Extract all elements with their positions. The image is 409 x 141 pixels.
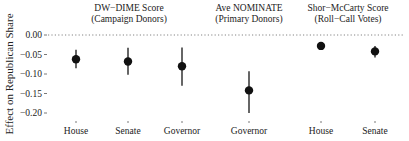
point-estimate bbox=[178, 62, 186, 70]
y-axis-title-text: Effect on Republican Share bbox=[3, 13, 15, 134]
x-tick-label: Governor bbox=[164, 126, 201, 136]
panel-title: DW−DIME Score bbox=[94, 3, 163, 13]
panel-3: Shor−McCarty Score(Roll−Call Votes)House… bbox=[307, 3, 388, 136]
panel-title: Shor−McCarty Score bbox=[307, 3, 388, 13]
panel-subtitle: (Campaign Donors) bbox=[91, 14, 167, 25]
y-tick-label: 0.00 bbox=[25, 30, 42, 40]
panel-subtitle: (Primary Donors) bbox=[215, 14, 282, 25]
point-estimate bbox=[317, 42, 325, 50]
point-estimate bbox=[371, 47, 379, 55]
y-axis: 0.00−0.05−0.10−0.15−0.20 bbox=[20, 30, 47, 118]
y-tick-label: −0.20 bbox=[20, 108, 42, 118]
point-estimate bbox=[245, 86, 253, 94]
y-axis-title: Effect on Republican Share bbox=[3, 13, 15, 134]
panel-title: Ave NOMINATE bbox=[215, 3, 282, 13]
panels: DW−DIME Score(Campaign Donors)HouseSenat… bbox=[64, 3, 389, 136]
x-tick-label: Governor bbox=[231, 126, 268, 136]
x-tick-label: Senate bbox=[115, 126, 140, 136]
point-estimate bbox=[72, 55, 80, 63]
panel-1: DW−DIME Score(Campaign Donors)HouseSenat… bbox=[64, 3, 201, 136]
y-tick-label: −0.10 bbox=[20, 69, 42, 79]
y-tick-label: −0.05 bbox=[20, 50, 42, 60]
point-estimate bbox=[124, 57, 132, 65]
x-tick-label: House bbox=[309, 126, 333, 136]
panel-subtitle: (Roll−Call Votes) bbox=[314, 14, 381, 25]
panel-2: Ave NOMINATE(Primary Donors)Governor bbox=[215, 3, 282, 136]
x-tick-label: House bbox=[64, 126, 88, 136]
x-tick-label: Senate bbox=[362, 126, 387, 136]
coefficient-plot: Effect on Republican Share 0.00−0.05−0.1… bbox=[0, 0, 409, 141]
y-tick-label: −0.15 bbox=[20, 89, 42, 99]
